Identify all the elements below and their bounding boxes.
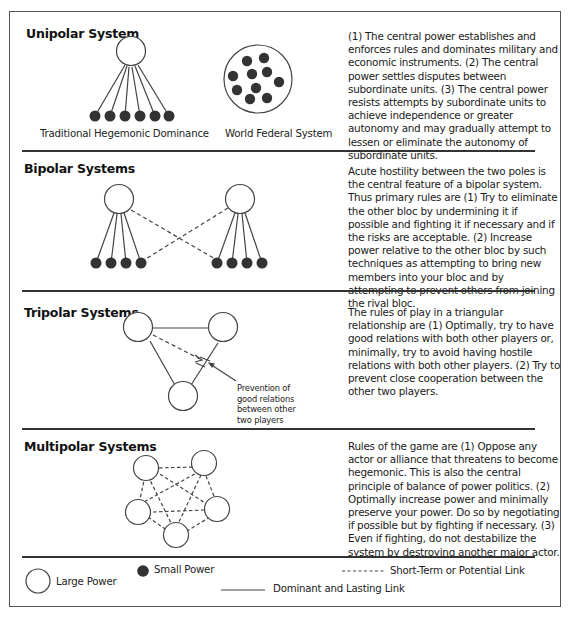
large-power-node <box>169 382 198 411</box>
legend-dominant-label: Dominant and Lasting Link <box>273 583 405 594</box>
legend-small-power-icon <box>137 565 149 577</box>
large-power-node <box>105 185 134 214</box>
legend-large-power-label: Large Power <box>56 576 117 587</box>
large-power-node <box>226 185 255 214</box>
legend-large-power-icon <box>26 569 50 593</box>
large-power-node <box>209 313 238 342</box>
legend-short-term-label: Short-Term or Potential Link <box>390 565 525 576</box>
tripolar-diagram <box>124 313 238 411</box>
diagrams-canvas <box>0 0 580 621</box>
legend-small-power-label: Small Power <box>154 564 214 575</box>
large-power-node <box>124 313 153 342</box>
large-power-node <box>117 37 146 66</box>
hegemonic-diagram <box>95 37 169 117</box>
bipolar-diagram <box>96 185 262 264</box>
